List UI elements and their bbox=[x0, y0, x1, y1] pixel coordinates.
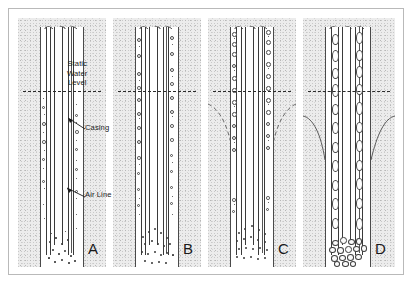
panel-letter-c: C bbox=[278, 240, 289, 257]
static-water-level-line-d bbox=[308, 91, 390, 92]
casing-leader-line bbox=[64, 117, 86, 131]
swl-label-line-1: Static bbox=[67, 59, 87, 69]
swl-label-line-3: Level bbox=[67, 78, 87, 88]
swl-label-line-2: Water bbox=[67, 69, 87, 79]
sediment-pile-b bbox=[135, 216, 179, 267]
figure-frame: A bbox=[8, 8, 404, 275]
static-water-level-line-a bbox=[23, 91, 101, 92]
panel-a: A bbox=[18, 18, 106, 267]
static-water-level-line-c bbox=[213, 91, 291, 92]
static-water-level-line-b bbox=[118, 91, 196, 92]
static-water-level-label: Static Water Level bbox=[67, 59, 87, 88]
panel-b: B bbox=[113, 18, 201, 267]
air-line-label: Air Line bbox=[85, 190, 112, 200]
panel-c: C bbox=[208, 18, 296, 267]
air-line-leader-line bbox=[62, 186, 86, 200]
panel-d: D bbox=[303, 18, 395, 267]
sediment-pile-c bbox=[230, 214, 274, 267]
sediment-pile-a bbox=[40, 223, 84, 267]
casing-label: Casing bbox=[85, 123, 109, 133]
panel-letter-a: A bbox=[88, 240, 98, 257]
air-line-leader-icon bbox=[62, 186, 86, 200]
casing-leader-icon bbox=[64, 117, 86, 131]
figure-root: A bbox=[0, 0, 412, 283]
panel-letter-b: B bbox=[183, 240, 193, 257]
panel-letter-d: D bbox=[375, 240, 386, 257]
gravel-pile-d bbox=[325, 230, 371, 267]
